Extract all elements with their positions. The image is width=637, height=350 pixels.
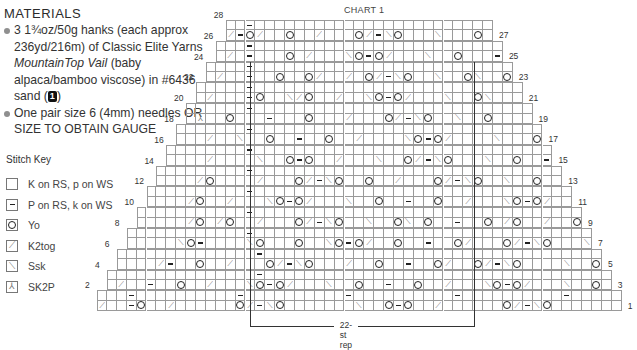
chart-cell — [513, 290, 523, 300]
chart-cell — [354, 20, 364, 30]
chart-cell — [404, 30, 414, 40]
row-number: 7 — [598, 238, 603, 248]
chart-cell — [582, 228, 592, 238]
chart-cell — [513, 259, 523, 269]
stitch-key-item: Yo — [6, 215, 126, 236]
chart-cell — [483, 186, 493, 196]
chart-cell: ⟍ — [216, 218, 226, 228]
stitch-key-label: K2tog — [28, 240, 55, 252]
yarn-over-icon — [236, 301, 244, 309]
chart-cell — [513, 218, 523, 228]
chart-cell: ⟍ — [206, 280, 216, 290]
chart-cell — [236, 124, 246, 134]
chart-cell — [176, 228, 186, 238]
chart-cell — [414, 51, 424, 61]
chart-cell — [562, 270, 572, 280]
chart-cell — [473, 51, 483, 61]
purl-icon — [247, 55, 252, 56]
chart-cell — [493, 124, 503, 134]
chart-cell — [295, 41, 305, 51]
chart-cell — [275, 51, 285, 61]
chart-cell: ⟍ — [196, 176, 206, 186]
chart-cell — [206, 145, 216, 155]
k2tog-icon: ⟍ — [544, 217, 550, 227]
chart-cell — [543, 290, 553, 300]
chart-cell — [127, 228, 137, 238]
chart-cell — [156, 197, 166, 207]
ssk-icon: ⟍ — [237, 134, 243, 144]
chart-cell — [186, 290, 196, 300]
chart-cell — [137, 207, 147, 217]
chart-cell — [364, 51, 374, 61]
stitch-key-item: K on RS, p on WS — [6, 174, 126, 195]
chart-cell — [582, 249, 592, 259]
row-number: 20 — [174, 93, 183, 103]
ssk-icon: ⟍ — [485, 93, 491, 103]
chart-cell — [543, 186, 553, 196]
chart-cell — [236, 62, 246, 72]
chart-cell — [374, 41, 384, 51]
chart-cell — [166, 280, 176, 290]
chart-cell — [493, 197, 503, 207]
chart-cell — [552, 259, 562, 269]
chart-cell — [463, 41, 473, 51]
stitch-key-label: Yo — [28, 219, 40, 231]
chart-cell — [186, 114, 196, 124]
chart-cell — [543, 301, 553, 311]
chart-cell — [473, 20, 483, 30]
chart-cell — [206, 207, 216, 217]
chart-cell — [216, 103, 226, 113]
chart-cell — [354, 51, 364, 61]
chart-cell — [166, 259, 176, 269]
chart-cell — [206, 114, 216, 124]
chart-cell — [315, 41, 325, 51]
chart-cell — [503, 124, 513, 134]
chart-cell — [424, 41, 434, 51]
chart-cell — [572, 290, 582, 300]
chart-cell — [186, 103, 196, 113]
chart-cell — [236, 176, 246, 186]
chart-cell — [552, 176, 562, 186]
chart-cell — [493, 176, 503, 186]
chart-cell — [404, 20, 414, 30]
chart-cell — [137, 290, 147, 300]
chart-cell — [216, 62, 226, 72]
chart-cell — [592, 270, 602, 280]
yarn-over-icon — [187, 239, 195, 247]
yarn-over-icon — [503, 301, 511, 309]
chart-cell — [166, 249, 176, 259]
chart-cell — [493, 155, 503, 165]
k2tog-icon: ⟍ — [227, 197, 233, 207]
chart-cell — [196, 249, 206, 259]
chart-cell — [483, 301, 493, 311]
chart-cell — [275, 41, 285, 51]
chart-cell — [592, 290, 602, 300]
chart-cell — [513, 207, 523, 217]
chart-cell: ⟍ — [503, 218, 513, 228]
ssk-icon: ⟍ — [475, 72, 481, 82]
stitch-key-label: K on RS, p on WS — [28, 178, 113, 190]
chart-cell — [156, 207, 166, 217]
chart-cell — [533, 270, 543, 280]
chart-cell — [166, 197, 176, 207]
yarn-over-icon — [493, 281, 501, 289]
repeat-bracket — [250, 62, 475, 328]
chart-cell — [176, 290, 186, 300]
chart-cell — [196, 259, 206, 269]
chart-cell — [226, 186, 236, 196]
chart-cell — [196, 166, 206, 176]
yarn-over-icon — [513, 197, 521, 205]
chart-cell — [216, 82, 226, 92]
chart-cell — [434, 41, 444, 51]
chart-cell — [216, 114, 226, 124]
ssk-icon: ⟍ — [534, 301, 540, 311]
chart-cell — [236, 20, 246, 30]
chart-cell — [186, 134, 196, 144]
chart-cell — [236, 145, 246, 155]
chart-cell — [147, 197, 157, 207]
chart-cell — [186, 176, 196, 186]
chart-cell — [226, 114, 236, 124]
chart-cell — [345, 41, 355, 51]
chart-cell: ⟍ — [503, 176, 513, 186]
chart-cell: ⟍ — [543, 218, 553, 228]
